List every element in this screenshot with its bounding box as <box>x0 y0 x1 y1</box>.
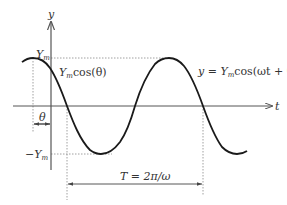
trough-label: −Ym <box>25 148 48 162</box>
intercept-label: Ymcos(θ) <box>59 66 107 80</box>
t-axis-label: t <box>275 100 280 113</box>
period-label: T = 2π/ω <box>120 170 170 183</box>
equation-label: y = Ymcos(ωt + θ) <box>197 65 287 79</box>
phase-label: θ <box>39 111 46 124</box>
sinusoid-diagram: y t Ym Ymcos(θ) y = Ymcos(ωt + θ) θ −Ym … <box>0 0 287 205</box>
y-axis-label: y <box>47 8 55 21</box>
guide-lines <box>33 58 203 200</box>
peak-label: Ym <box>36 48 50 62</box>
